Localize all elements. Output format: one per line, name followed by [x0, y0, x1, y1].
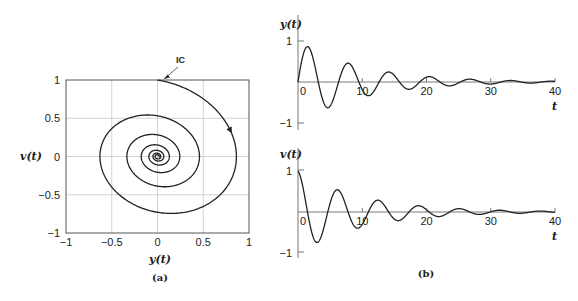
svg-text:1: 1	[54, 74, 60, 86]
svg-text:1: 1	[246, 236, 252, 248]
phase-ticks: −1−0.500.5110.50−0.5−1	[38, 74, 252, 248]
svg-text:1: 1	[286, 165, 292, 177]
v-curve	[298, 171, 555, 243]
v-time-plot: 0102030401−1 v(t) t	[279, 148, 561, 259]
grid-lines	[66, 80, 249, 233]
svg-text:40: 40	[549, 215, 561, 227]
y-time-plot: 0102030401−1 y(t) t	[279, 15, 561, 130]
svg-text:30: 30	[485, 215, 497, 227]
figure: IC −1−0.500.5110.50−0.5−1 y(t) v(t) (a) …	[0, 0, 578, 301]
svg-text:0: 0	[54, 151, 60, 163]
svg-text:20: 20	[420, 85, 432, 97]
svg-text:30: 30	[485, 85, 497, 97]
svg-text:0: 0	[300, 85, 306, 97]
svg-text:10: 10	[356, 85, 368, 97]
svg-text:1: 1	[286, 35, 292, 47]
svg-text:−1: −1	[279, 117, 292, 129]
bottom-x-label: t	[552, 230, 557, 243]
top-y-label: y(t)	[279, 18, 302, 31]
svg-text:10: 10	[356, 215, 368, 227]
y-axis-label: v(t)	[20, 150, 42, 163]
svg-text:−0.5: −0.5	[38, 189, 60, 201]
x-axis-label: y(t)	[148, 253, 171, 266]
caption-a: (a)	[152, 272, 168, 283]
svg-text:20: 20	[420, 215, 432, 227]
svg-text:0: 0	[154, 236, 160, 248]
phase-trajectory	[100, 80, 236, 213]
phase-plot: IC −1−0.500.5110.50−0.5−1 y(t) v(t) (a)	[20, 55, 252, 283]
svg-text:−1: −1	[47, 227, 60, 239]
y-curve	[298, 47, 555, 108]
svg-text:−1: −1	[60, 236, 73, 248]
svg-text:0.5: 0.5	[196, 236, 211, 248]
ic-label: IC	[176, 55, 186, 65]
svg-text:40: 40	[549, 85, 561, 97]
ic-arrow-icon	[164, 75, 170, 80]
svg-text:0.5: 0.5	[45, 112, 60, 124]
svg-text:0: 0	[300, 215, 306, 227]
svg-text:−0.5: −0.5	[101, 236, 123, 248]
top-x-label: t	[552, 100, 557, 113]
bottom-y-label: v(t)	[280, 148, 302, 161]
caption-b: (b)	[418, 268, 434, 279]
svg-text:−1: −1	[279, 247, 292, 259]
